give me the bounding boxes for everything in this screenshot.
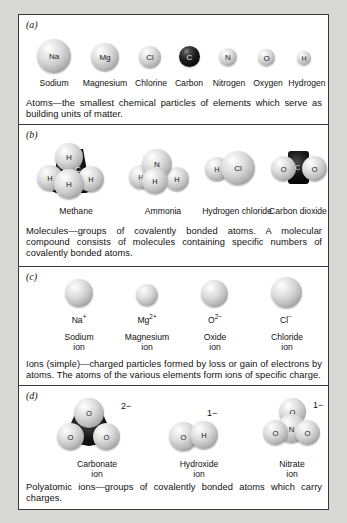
nitrate-oxygen-left: O [263,420,288,445]
polyatomic-label-nitrate: Nitrate ion [259,460,325,479]
molecule-methane: H H H H C [37,143,117,205]
atom-chlorine-sphere: Cl [139,46,161,68]
panel-d: (d) O O O C 2− O H 1− [19,386,328,511]
hydroxide-charge-label: 1− [207,408,217,418]
panel-d-caption: Polyatomic ions—groups of covalently bon… [19,481,328,508]
atom-magnesium-sphere: Mg [91,43,119,71]
ion-label-magnesium: Magnesium ion [115,333,179,352]
ion-label-oxide: Oxide ion [189,333,241,352]
ion-formula-magnesium: Mg2+ [123,312,171,325]
hydroxide-hydrogen: H [190,421,218,449]
co2-oxygen-right: O [302,156,327,181]
molecule-carbon-dioxide: O O C [271,151,333,193]
panel-b-stage: H H H H C H H N H [19,125,328,225]
ion-formula-oxide: O2− [191,312,239,325]
atom-carbon-symbol: C [179,52,200,61]
atom-magnesium-symbol: Mg [91,53,119,62]
polyatomic-carbonate: O O O C 2− [57,398,139,456]
panel-b-caption: Molecules—groups of covalently bonded at… [19,225,328,264]
panel-b: (b) H H H H C H H [19,125,328,267]
atom-hydrogen-sphere: H [297,51,311,65]
panel-a: (a) Na Mg Cl C N O H Sodium Magnesium Ch… [19,15,328,125]
ammonia-hydrogen-front: H [142,168,168,194]
polyatomic-nitrate: O N O O 1− [263,398,343,456]
panel-a-caption: Atoms—the smallest chemical particles of… [19,97,328,124]
panel-d-stage: O O O C 2− O H 1− O [19,386,328,481]
ion-label-chloride: Chloride ion [259,333,315,352]
carbonate-charge-label: 2− [121,401,131,411]
atom-label-nitrogen: Nitrogen [205,79,253,89]
panel-c-caption: Ions (simple)—charged particles formed b… [19,358,328,385]
molecule-label-carbon-dioxide: Carbon dioxide [267,207,329,217]
ion-oxide-sphere [201,280,228,307]
atom-hydrogen-symbol: H [297,55,311,62]
atom-nitrogen-sphere: N [219,48,237,66]
ion-formula-sodium: Na+ [55,312,103,325]
atom-sodium-sphere: Na [37,39,71,73]
molecule-label-methane: Methane [39,207,113,217]
ion-formula-chloride: Cl− [262,312,310,325]
figure-container: (a) Na Mg Cl C N O H Sodium Magnesium Ch… [18,14,329,510]
methane-carbon-symbol: C [75,165,81,174]
panel-c-stage: Na+ Mg2+ O2− Cl− Sodium ion Magnesium io… [19,267,328,358]
atom-nitrogen-symbol: N [219,53,237,62]
hcl-chlorine: Cl [221,151,255,185]
molecule-hydrogen-chloride: H Cl [205,151,275,197]
polyatomic-label-carbonate: Carbonate ion [59,460,135,479]
ion-chloride-sphere [271,277,302,308]
polyatomic-label-hydroxide: Hydroxide ion [159,460,239,479]
ion-sodium-sphere [65,279,93,307]
nitrate-oxygen-right: O [295,420,320,445]
panel-c: (c) Na+ Mg2+ O2− Cl− Sodium ion Magnesiu… [19,267,328,386]
ion-magnesium-sphere [136,284,158,306]
molecule-ammonia: H H N H [129,149,201,201]
atom-oxygen-sphere: O [258,49,275,66]
atom-sodium-symbol: Na [37,52,71,61]
polyatomic-hydroxide: O H 1− [169,408,245,456]
co2-oxygen-left: O [271,156,296,181]
panel-a-stage: Na Mg Cl C N O H Sodium Magnesium Chlori… [19,15,328,97]
atom-chlorine-symbol: Cl [139,53,161,62]
ion-label-sodium: Sodium ion [51,333,107,352]
carbonate-oxygen-left: O [57,423,84,450]
atom-oxygen-symbol: O [258,53,275,62]
atom-label-hydrogen: Hydrogen [283,79,331,89]
co2-carbon-symbol: C [295,163,300,172]
carbonate-carbon-symbol: C [85,419,90,428]
molecule-label-ammonia: Ammonia [127,207,199,217]
carbonate-oxygen-right: O [93,423,120,450]
atom-carbon-sphere: C [179,46,200,67]
nitrate-charge-label: 1− [313,400,323,410]
